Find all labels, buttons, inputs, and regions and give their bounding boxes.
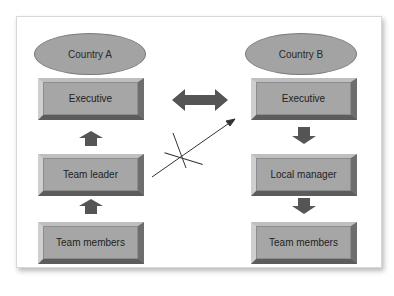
up-arrow-icon	[79, 131, 103, 146]
down-arrow-icon	[292, 198, 316, 214]
crossed-arrow-icon	[152, 119, 235, 177]
connectors-layer	[0, 0, 394, 296]
double-arrow-icon	[172, 89, 228, 111]
caption-cutoff	[90, 286, 320, 296]
down-arrow-icon	[292, 127, 316, 144]
up-arrow-icon	[79, 199, 103, 214]
